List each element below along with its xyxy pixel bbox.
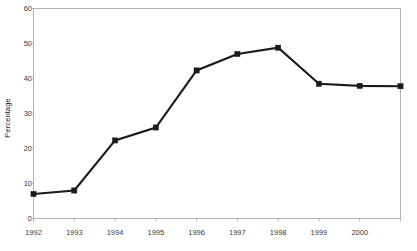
data-point-marker [357, 83, 362, 88]
plot-area [0, 0, 417, 251]
data-point-marker [194, 68, 199, 73]
data-point-marker [112, 138, 117, 143]
data-series [31, 45, 403, 197]
data-point-marker [276, 45, 281, 50]
data-point-marker [235, 51, 240, 56]
axis-tick-marks [31, 9, 401, 222]
axis-lines [34, 9, 401, 219]
series-line [34, 48, 401, 194]
line-chart: Percentage 0102030405060 199219931994199… [0, 0, 417, 251]
data-point-marker [316, 81, 321, 86]
data-point-marker [31, 191, 36, 196]
data-point-marker [153, 125, 158, 130]
data-point-marker [398, 84, 403, 89]
data-point-marker [72, 188, 77, 193]
